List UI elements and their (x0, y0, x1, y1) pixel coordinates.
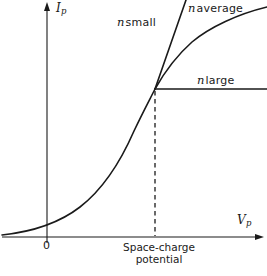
x-axis-label-symbol: V (237, 213, 246, 227)
curve-label-n-small-text: small (126, 16, 156, 29)
y-axis-arrow-icon (44, 2, 50, 11)
curve-n-small (155, 0, 186, 89)
curve-label-n-average-variable: n (188, 1, 197, 15)
y-axis-label: Ip (56, 2, 67, 16)
y-axis-label-subscript: p (61, 6, 67, 16)
x-axis-label-subscript: p (246, 218, 252, 228)
x-axis-label: Vp (237, 214, 251, 228)
curve-label-n-small-variable: n (117, 15, 126, 29)
curve-label-n-average-text: average (197, 2, 243, 15)
curve-label-n-large: nlarge (197, 74, 235, 87)
curve-label-n-small: nsmall (117, 16, 156, 29)
plot-canvas (0, 0, 267, 276)
space-charge-potential-line1: Space-charge (113, 241, 205, 253)
curve-label-n-large-variable: n (197, 73, 206, 87)
curve-label-n-large-text: large (206, 74, 235, 87)
x-axis-arrow-icon (255, 234, 264, 240)
curve-common-rise (2, 89, 155, 235)
figure-container: Ip Vp 0 nsmall naverage nlarge Space-cha… (0, 0, 267, 276)
x-axis (2, 234, 264, 240)
space-charge-potential-line2: potential (113, 253, 205, 265)
space-charge-potential-label: Space-charge potential (113, 241, 205, 266)
curve-label-n-average: naverage (188, 2, 243, 15)
y-axis (44, 2, 50, 243)
origin-label: 0 (43, 240, 50, 252)
